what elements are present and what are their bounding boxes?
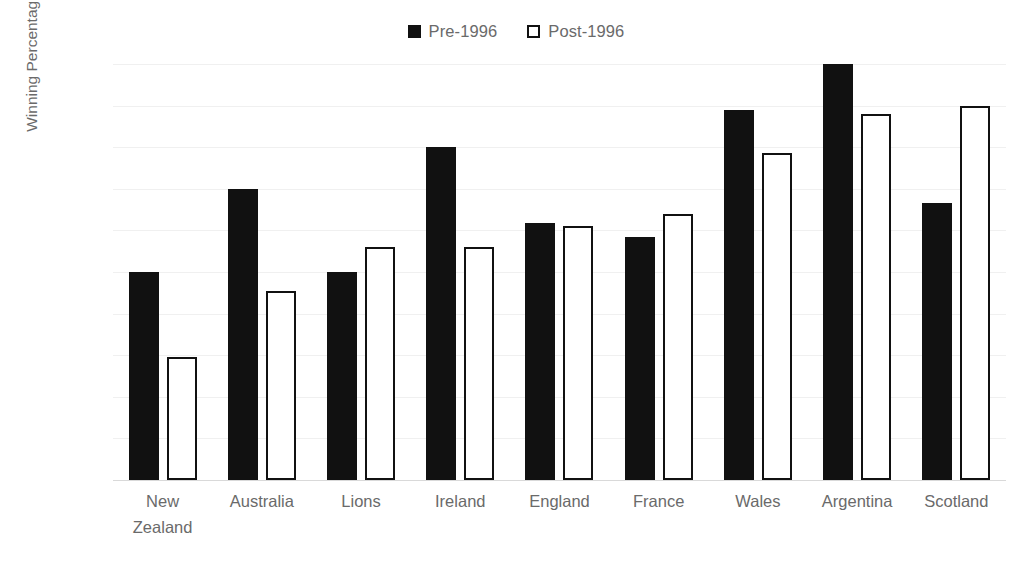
x-axis-category-label: France <box>609 488 708 540</box>
bar-group <box>907 64 1006 480</box>
legend-entry-pre-1996: Pre-1996 <box>408 22 498 41</box>
bar-group <box>411 64 510 480</box>
x-axis-category-label: Wales <box>708 488 807 540</box>
legend-label-pre-1996: Pre-1996 <box>429 22 498 41</box>
bar-pre-1996 <box>327 272 357 480</box>
x-axis-baseline <box>113 480 1006 481</box>
bar-post-1996 <box>861 114 891 480</box>
bar-pre-1996 <box>922 203 952 480</box>
bar-pre-1996 <box>525 223 555 480</box>
legend-label-post-1996: Post-1996 <box>548 22 624 41</box>
plot-area: 100%90%80%70%60%50%40%30%20%10%0% <box>113 64 1006 480</box>
x-axis-category-label: Ireland <box>411 488 510 540</box>
legend-entry-post-1996: Post-1996 <box>527 22 624 41</box>
bar-group <box>609 64 708 480</box>
bar-post-1996 <box>167 357 197 480</box>
bar-pre-1996 <box>228 189 258 480</box>
bar-post-1996 <box>762 153 792 480</box>
bar-group <box>311 64 410 480</box>
x-axis-category-labels: New ZealandAustraliaLionsIrelandEnglandF… <box>113 488 1006 540</box>
x-axis-category-label: New Zealand <box>113 488 212 540</box>
y-axis-title: Winning Percentage <box>23 0 45 177</box>
x-axis-category-label: Australia <box>212 488 311 540</box>
bar-post-1996 <box>960 106 990 480</box>
bar-post-1996 <box>563 226 593 480</box>
x-axis-category-label: Lions <box>311 488 410 540</box>
bar-groups <box>113 64 1006 480</box>
bar-group <box>212 64 311 480</box>
bar-post-1996 <box>266 291 296 480</box>
bar-group <box>808 64 907 480</box>
bar-group <box>510 64 609 480</box>
x-axis-category-label: Scotland <box>907 488 1006 540</box>
bar-pre-1996 <box>129 272 159 480</box>
bar-pre-1996 <box>823 64 853 480</box>
x-axis-category-label: Argentina <box>808 488 907 540</box>
bar-post-1996 <box>663 214 693 480</box>
bar-post-1996 <box>464 247 494 480</box>
bar-pre-1996 <box>625 237 655 480</box>
bar-post-1996 <box>365 247 395 480</box>
winning-percentage-bar-chart: Pre-1996 Post-1996 Winning Percentage 10… <box>0 0 1032 561</box>
legend-swatch-hollow-icon <box>527 25 540 38</box>
bar-pre-1996 <box>426 147 456 480</box>
bar-pre-1996 <box>724 110 754 480</box>
chart-legend: Pre-1996 Post-1996 <box>0 22 1032 41</box>
bar-group <box>708 64 807 480</box>
legend-swatch-filled-icon <box>408 25 421 38</box>
bar-group <box>113 64 212 480</box>
x-axis-category-label: England <box>510 488 609 540</box>
